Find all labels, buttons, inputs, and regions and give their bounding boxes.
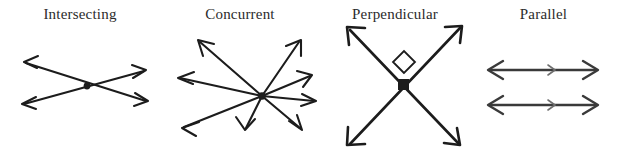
perpendicular-point-dot	[398, 79, 409, 90]
perpendicular-illustration	[320, 0, 470, 157]
intersecting-line-a	[26, 63, 146, 101]
arrowhead-down-left	[182, 122, 199, 136]
arrowhead-left	[178, 72, 194, 84]
figure-concurrent: Concurrent	[160, 0, 320, 157]
figure-intersecting: Intersecting	[0, 0, 160, 157]
concurrent-illustration	[160, 0, 320, 157]
concurrent-point-dot	[258, 92, 266, 100]
arrowhead-down	[236, 117, 255, 130]
figure-perpendicular: Perpendicular	[320, 0, 470, 157]
arrowhead-down-right	[289, 115, 302, 130]
concurrent-ray-down-right	[262, 96, 300, 128]
concurrent-ray-up-left	[200, 42, 262, 96]
intersection-point-dot	[84, 83, 91, 90]
diagram-canvas: Intersecting Concurrent	[0, 0, 617, 157]
concurrent-ray-left	[180, 78, 262, 96]
parallel-illustration	[470, 0, 617, 157]
figure-parallel: Parallel	[470, 0, 617, 157]
right-angle-marker	[393, 51, 415, 73]
intersecting-illustration	[0, 0, 160, 157]
